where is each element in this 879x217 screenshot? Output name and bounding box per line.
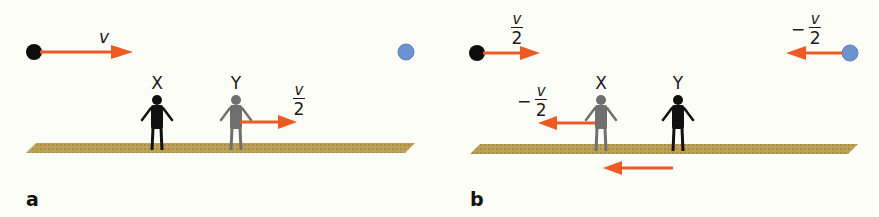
- observer-x-label-a: X: [151, 75, 163, 92]
- black-ball-velocity-arrow-a: [40, 45, 133, 59]
- observer-x-label-b: X: [595, 75, 607, 92]
- floor-velocity-arrow-b: [603, 161, 673, 175]
- black-ball-velocity-arrow-b: [483, 46, 540, 60]
- observer-y-label-a: Y: [231, 75, 241, 92]
- panel-a-drawing: [0, 0, 440, 217]
- blue-ball-a: [398, 44, 414, 60]
- black-ball-velocity-label-a: v: [99, 29, 109, 46]
- black-ball-b: [469, 45, 485, 61]
- black-ball-a: [26, 44, 42, 60]
- blue-ball-velocity-arrow-b: [786, 46, 843, 60]
- blue-ball-velocity-label-b: − v 2: [791, 12, 821, 46]
- black-ball-velocity-label-b: v 2: [507, 12, 523, 46]
- observer-y-figure-b: [663, 95, 693, 151]
- observer-x-velocity-label-b: − v 2: [517, 84, 547, 118]
- blue-ball-b: [842, 45, 858, 61]
- panel-a: v X Y v 2 a: [0, 0, 440, 217]
- observer-x-figure-a: [142, 95, 172, 150]
- panel-label-a: a: [26, 188, 39, 210]
- observer-y-velocity-label-a: v 2: [289, 83, 305, 117]
- panel-label-b: b: [470, 188, 484, 210]
- floor-b: [470, 144, 858, 154]
- floor-a: [26, 143, 415, 153]
- observer-y-label-b: Y: [673, 75, 683, 92]
- panel-b: v 2 − v 2 − v 2 X Y b: [440, 0, 879, 217]
